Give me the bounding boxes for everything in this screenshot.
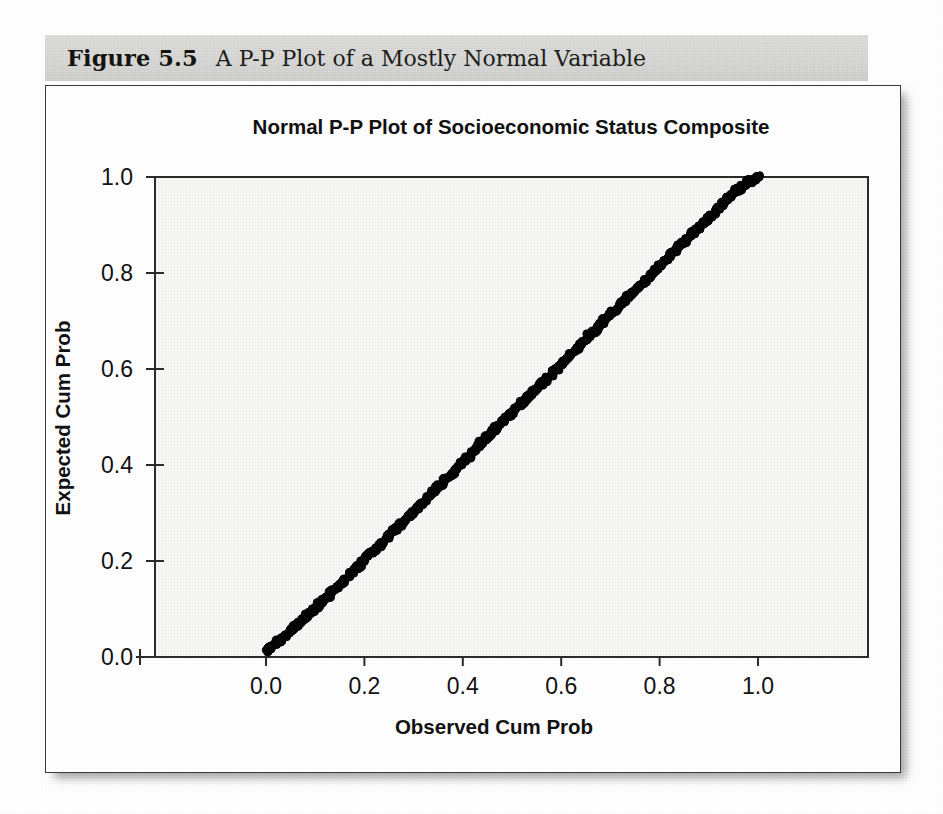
figure-card xyxy=(45,85,901,773)
figure-caption-text: A P-P Plot of a Mostly Normal Variable xyxy=(216,46,646,71)
figure-page: Figure 5.5 A P-P Plot of a Mostly Normal… xyxy=(0,0,943,814)
figure-number-label: Figure 5.5 xyxy=(67,45,198,71)
figure-caption-band: Figure 5.5 A P-P Plot of a Mostly Normal… xyxy=(45,35,868,81)
